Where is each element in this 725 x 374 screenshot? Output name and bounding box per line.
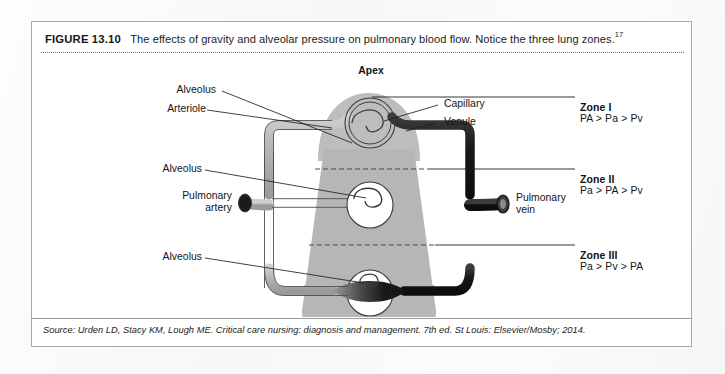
zone-1-equation: PA > Pa > Pv (580, 113, 643, 124)
zone-3-equation: Pa > Pv > PA (580, 261, 643, 272)
capillary-label: Capillary (444, 98, 485, 110)
figure-header: FIGURE 13.10 The effects of gravity and … (32, 22, 691, 52)
pulmonary-artery-label-line2: artery (205, 202, 232, 213)
zone3-vascular-circuit (265, 268, 471, 316)
zone-label-3: Zone III Pa > Pv > PA (580, 249, 643, 272)
zone-2-title: Zone II (580, 173, 643, 185)
pulmonary-artery-label-line1: Pulmonary (182, 190, 232, 201)
zone-2-equation: Pa > PA > Pv (580, 185, 643, 196)
figure-caption: The effects of gravity and alveolar pres… (130, 33, 614, 45)
pulmonary-vein-label-line1: Pulmonary (516, 192, 566, 203)
zone-1-title: Zone I (580, 101, 643, 113)
alveolus-middle (347, 182, 393, 228)
page-canvas: FIGURE 13.10 The effects of gravity and … (0, 0, 725, 374)
figure-box: FIGURE 13.10 The effects of gravity and … (31, 21, 692, 347)
figure-number: FIGURE 13.10 (45, 33, 121, 45)
venule-label: Venule (444, 116, 476, 128)
apex-label: Apex (339, 65, 403, 77)
zone-label-2: Zone II Pa > PA > Pv (580, 173, 643, 196)
alveolus-top-label: Alveolus (142, 84, 216, 96)
source-divider (32, 318, 691, 319)
lung-zones-diagram: Apex Alveolus Arteriole Capillary Venule… (32, 53, 691, 317)
arteriole-label: Arteriole (132, 103, 206, 115)
pulmonary-vein-label: Pulmonary vein (516, 192, 566, 215)
alveolus-middle-label: Alveolus (128, 163, 202, 175)
pulmonary-artery-label: Pulmonary artery (128, 190, 232, 213)
zone-label-1: Zone I PA > Pa > Pv (580, 101, 643, 124)
pulmonary-vein-label-line2: vein (516, 204, 535, 215)
zone-3-title: Zone III (580, 249, 643, 261)
source-citation: Source: Urden LD, Stacy KM, Lough ME. Cr… (43, 325, 688, 335)
alveolus-bottom-label: Alveolus (128, 251, 202, 263)
figure-superscript-ref: 17 (615, 30, 623, 39)
